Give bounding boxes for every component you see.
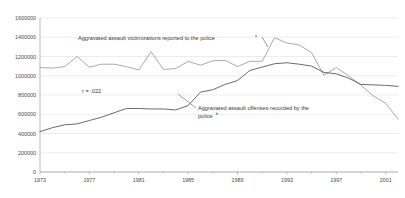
victimizations-series-label: Aggravated assault victimizations report… [78, 35, 215, 41]
y-tick-label: 1000000 [15, 73, 36, 79]
x-tick-label: 1981 [133, 177, 145, 183]
y-tick-label: 200000 [18, 150, 36, 156]
x-tick-label: 1997 [330, 177, 342, 183]
y-tick-label: 1600000 [15, 15, 36, 21]
correlation-annotation: r = .022 [82, 88, 101, 94]
x-tick-label: 1989 [232, 177, 244, 183]
y-tick-label: 400000 [18, 131, 36, 137]
annotations-group: Aggravated assault victimizations report… [78, 34, 309, 119]
x-tick-label: 2001 [380, 177, 392, 183]
x-tick-label: 1977 [83, 177, 95, 183]
chart-figure: 0200000400000600000800000100000012000001… [0, 0, 405, 198]
y-tick-label: 600000 [18, 111, 36, 117]
y-tick-label: 800000 [18, 92, 36, 98]
offenses-series-label-line1: Aggravated assault offenses recorded by … [198, 105, 309, 111]
line-chart: 0200000400000600000800000100000012000001… [0, 0, 405, 198]
gridlines [40, 18, 398, 172]
victimizations-leader-line [262, 37, 268, 47]
data-series-group [40, 38, 398, 132]
x-tick-label: 1993 [281, 177, 293, 183]
offenses-series-label-superscript: b [216, 112, 218, 116]
axis-ticks [40, 172, 386, 175]
offenses-series-label-line2: police [198, 113, 213, 119]
y-tick-label: 1400000 [15, 34, 36, 40]
x-tick-label: 1985 [182, 177, 194, 183]
y-axis-tick-labels: 0200000400000600000800000100000012000001… [15, 15, 36, 175]
y-tick-label: 0 [33, 169, 36, 175]
y-tick-label: 1200000 [15, 54, 36, 60]
x-axis-tick-labels: 19731977198119851989199319972001 [34, 177, 392, 183]
x-tick-label: 1973 [34, 177, 46, 183]
